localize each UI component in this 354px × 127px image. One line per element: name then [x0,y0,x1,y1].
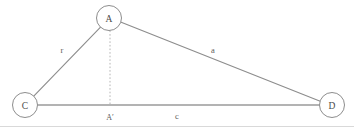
edge-a-to-d [121,22,320,101]
edge-c-to-a [34,26,102,96]
edge-label-c: c [175,111,179,121]
triangle-diagram-svg: A C D r a c A′ [0,0,354,127]
geometry-diagram-canvas: A C D r a c A′ [0,0,354,127]
point-label-a-prime: A′ [106,113,114,122]
node-label-c: C [22,101,28,111]
edge-label-r: r [61,45,64,55]
edge-label-a: a [211,45,215,55]
node-label-a: A [106,14,113,24]
node-label-d: D [329,101,336,111]
